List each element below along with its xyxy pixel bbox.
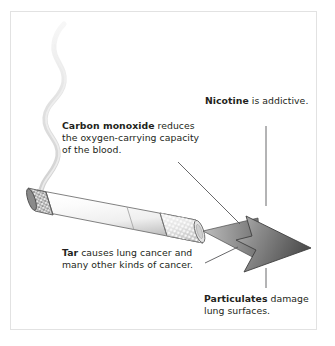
tar-diagonal-leader: [205, 247, 238, 263]
label-particulates-term: Particulates: [204, 293, 267, 304]
label-carbon-monoxide-line1: reduces: [155, 120, 195, 131]
label-particulates-line2: lung surfaces.: [204, 305, 309, 317]
label-nicotine-term: Nicotine: [205, 95, 249, 106]
label-carbon-monoxide-line2: the oxygen-carrying capacity: [62, 132, 199, 144]
label-carbon-monoxide-term: Carbon monoxide: [62, 120, 155, 131]
label-tar-term: Tar: [62, 247, 78, 258]
label-tar: Tar causes lung cancer and many other ki…: [62, 247, 193, 271]
label-tar-line2: many other kinds of cancer.: [62, 259, 193, 271]
label-carbon-monoxide-line3: of the blood.: [62, 144, 199, 156]
label-particulates: Particulates damage lung surfaces.: [204, 293, 309, 317]
carbon-monoxide-diagonal-leader: [178, 162, 240, 224]
cigarette: [25, 188, 208, 244]
label-nicotine: Nicotine is addictive.: [205, 95, 308, 107]
label-nicotine-text: is addictive.: [249, 95, 309, 106]
label-carbon-monoxide: Carbon monoxide reduces the oxygen-carry…: [62, 120, 199, 157]
label-particulates-line1: damage: [267, 293, 308, 304]
label-tar-line1: causes lung cancer and: [78, 247, 192, 258]
smoke-stream-arrow: [203, 216, 311, 272]
figure-container: Nicotine is addictive. Carbon monoxide r…: [0, 0, 335, 346]
